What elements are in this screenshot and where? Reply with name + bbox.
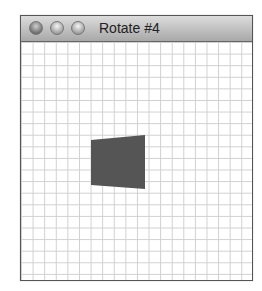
close-button[interactable] [29, 21, 43, 35]
zoom-button[interactable] [71, 21, 85, 35]
drawing-canvas [21, 42, 252, 280]
window-title: Rotate #4 [99, 20, 160, 36]
quad-shape [91, 135, 145, 189]
title-bar[interactable]: Rotate #4 [21, 16, 252, 42]
rotated-rectangle [21, 42, 252, 280]
app-window: Rotate #4 [20, 15, 253, 281]
minimize-button[interactable] [50, 21, 64, 35]
